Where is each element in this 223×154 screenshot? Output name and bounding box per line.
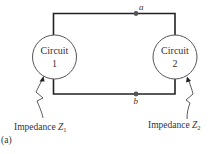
impedance-1-prefix: Impedance [14, 122, 58, 132]
impedance-1-pointer-arrow [36, 76, 45, 118]
circuit-2-circle [153, 35, 197, 79]
circuit-2-label-line1: Circuit [161, 45, 189, 56]
impedance-1-caption: Impedance Z1 [14, 122, 67, 133]
bottom-wire [54, 79, 176, 94]
arrowhead-1-icon [40, 76, 45, 82]
impedance-1-subscript: 1 [63, 126, 66, 133]
node-a-dot [134, 11, 139, 16]
impedance-2-subscript: 2 [197, 124, 200, 131]
circuit-2-block: Circuit 2 [153, 35, 197, 79]
panel-label: (a) [1, 135, 12, 146]
impedance-2-prefix: Impedance [148, 120, 192, 130]
circuit-1-label-line1: Circuit [41, 45, 69, 56]
circuit-diagram: Circuit 1 Circuit 2 a b Impedance Z1 Imp… [0, 0, 223, 154]
top-wire [54, 14, 176, 36]
impedance-2-pointer-arrow [186, 77, 193, 120]
impedance-2-caption: Impedance Z2 [148, 120, 201, 131]
node-b: b [134, 92, 139, 106]
arrowhead-2-icon [186, 77, 191, 83]
circuit-2-label-line2: 2 [173, 58, 178, 69]
squiggle-arrow-1-line [36, 80, 43, 118]
node-a-label: a [139, 2, 144, 12]
node-b-label: b [134, 96, 139, 106]
squiggle-arrow-2-line [186, 81, 193, 119]
circuit-1-label-line2: 1 [52, 58, 57, 69]
circuit-1-circle [33, 35, 77, 79]
circuit-1-block: Circuit 1 [33, 35, 77, 79]
